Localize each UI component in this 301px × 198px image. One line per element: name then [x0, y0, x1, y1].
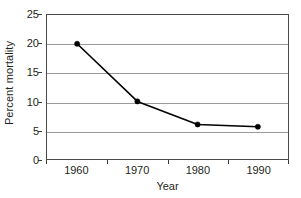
x-axis-tick-label: 1990 — [246, 164, 270, 177]
x-axis-title: Year — [46, 180, 289, 192]
data-point-marker — [135, 99, 140, 104]
y-axis-tick-mark — [38, 160, 42, 161]
x-axis-tick-label: 1960 — [64, 164, 88, 177]
y-axis-tick-mark — [38, 72, 42, 73]
data-point-marker — [255, 124, 260, 129]
chart-container: Percent mortality 0510152025 19601970198… — [0, 0, 301, 198]
data-point-marker — [195, 122, 200, 127]
data-series-svg — [47, 15, 288, 159]
y-axis-tick-mark — [38, 102, 42, 103]
y-axis-title: Percent mortality — [0, 0, 18, 165]
y-axis-title-text: Percent mortality — [3, 40, 15, 124]
y-axis-tick-mark — [38, 43, 42, 44]
series-line — [77, 44, 258, 127]
x-axis-tick-label: 1970 — [125, 164, 149, 177]
plot-area — [46, 14, 289, 160]
x-axis-tick-label: 1980 — [186, 164, 210, 177]
plot-inner — [47, 15, 288, 159]
x-axis-title-text: Year — [156, 180, 178, 192]
data-point-marker — [75, 41, 80, 46]
y-axis-tick-label-group: 0510152025 — [18, 0, 42, 165]
y-axis-tick-mark — [38, 131, 42, 132]
y-axis-tick-mark — [38, 14, 42, 15]
x-axis-tick-label-group: 1960197019801990 — [46, 164, 289, 180]
